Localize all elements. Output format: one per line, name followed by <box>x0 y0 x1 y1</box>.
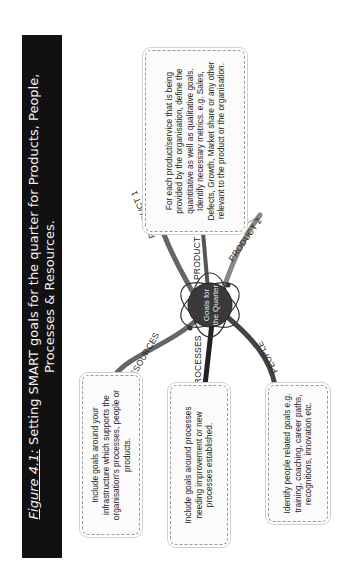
branch-product3 <box>203 232 208 290</box>
note-processes: Include goals around processes needing i… <box>170 385 228 545</box>
note-resources: Include goals around your infrastructure… <box>82 375 140 535</box>
branch-label-processes: PROCESSES <box>193 335 203 390</box>
rotated-page: Figure 4.1: Setting SMART goals for the … <box>0 0 349 585</box>
branch-processes <box>205 323 212 385</box>
note-people: Identify people related goals e.g. train… <box>268 385 328 522</box>
note-products: For each product/service that is being p… <box>145 50 245 232</box>
center-node-label: Goals for the Quarter <box>193 283 229 327</box>
branch-label-product3: PRODUCT 3 <box>192 229 202 280</box>
